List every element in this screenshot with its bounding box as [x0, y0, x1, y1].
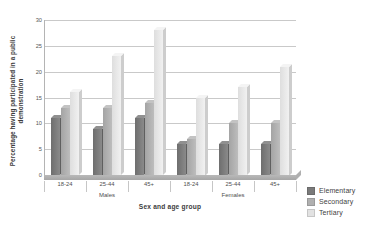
bar-face — [177, 144, 186, 175]
bar-face — [271, 123, 280, 175]
bar-series-container — [44, 20, 296, 175]
bar-side — [247, 84, 250, 175]
x-tick-label: 18-24 — [170, 181, 212, 187]
bar-face — [51, 118, 60, 175]
x-tick-separator — [254, 181, 255, 192]
bar-group — [128, 20, 170, 175]
bar-elementary-3[interactable] — [177, 144, 186, 175]
legend-label: Elementary — [319, 187, 355, 194]
plot-floor — [44, 175, 296, 180]
bar-face — [238, 87, 247, 175]
bar-elementary-4[interactable] — [219, 144, 228, 175]
y-tick-label: 15 — [20, 94, 42, 100]
bar-tertiary-0[interactable] — [70, 92, 79, 175]
bar-secondary-2[interactable] — [145, 103, 154, 175]
bar-secondary-0[interactable] — [61, 108, 70, 175]
y-tick-label: 20 — [20, 68, 42, 74]
bar-elementary-5[interactable] — [261, 144, 270, 175]
legend-label: Tertiary — [319, 209, 343, 216]
y-tick-label: 25 — [20, 43, 42, 49]
bar-face — [112, 56, 121, 175]
bar-group — [44, 20, 86, 175]
legend-swatch — [307, 187, 315, 195]
x-tick-separator — [44, 181, 45, 192]
legend-item[interactable]: Elementary — [307, 185, 377, 196]
bar-tertiary-3[interactable] — [196, 98, 205, 176]
y-axis-ticks: 051015202530 — [20, 20, 42, 175]
bar-face — [93, 129, 102, 176]
x-tick-label: 45+ — [128, 181, 170, 187]
bar-elementary-0[interactable] — [51, 118, 60, 175]
bar-face — [229, 123, 238, 175]
y-tick-label: 0 — [20, 172, 42, 178]
bar-face — [103, 108, 112, 175]
bar-side — [205, 95, 208, 176]
legend-label: Secondary — [319, 198, 353, 205]
x-tick-label: 25-44 — [86, 181, 128, 187]
bar-face — [187, 139, 196, 175]
x-tick-label: 25-44 — [212, 181, 254, 187]
x-axis-ticks: 18-2425-4445+18-2425-4445+ — [44, 181, 296, 192]
legend: ElementarySecondaryTertiary — [307, 185, 377, 218]
bar-group — [170, 20, 212, 175]
legend-swatch — [307, 209, 315, 217]
bar-tertiary-5[interactable] — [280, 67, 289, 176]
bar-tertiary-4[interactable] — [238, 87, 247, 175]
bar-group — [86, 20, 128, 175]
bar-face — [145, 103, 154, 175]
bar-face — [280, 67, 289, 176]
legend-swatch — [307, 198, 315, 206]
x-axis-groups: MalesFemales — [44, 192, 296, 202]
bar-secondary-3[interactable] — [187, 139, 196, 175]
x-group-label: Males — [44, 192, 170, 198]
bar-side — [79, 89, 82, 175]
plot-area — [44, 20, 296, 175]
bar-elementary-2[interactable] — [135, 118, 144, 175]
bar-tertiary-2[interactable] — [154, 30, 163, 175]
x-group-label: Females — [170, 192, 296, 198]
bar-face — [219, 144, 228, 175]
x-tick-separator — [296, 181, 297, 192]
bar-group — [212, 20, 254, 175]
chart-canvas: Percentage having participated in a publ… — [0, 0, 380, 234]
y-tick-label: 10 — [20, 120, 42, 126]
bar-tertiary-1[interactable] — [112, 56, 121, 175]
bar-face — [70, 92, 79, 175]
bar-secondary-4[interactable] — [229, 123, 238, 175]
x-tick-label: 45+ — [254, 181, 296, 187]
bar-face — [154, 30, 163, 175]
x-tick-separator — [86, 181, 87, 192]
x-tick-separator — [128, 181, 129, 192]
bar-side — [163, 27, 166, 175]
bar-side — [121, 53, 124, 175]
x-tick-separator — [170, 181, 171, 192]
bar-side — [289, 64, 292, 176]
x-axis-title: Sex and age group — [44, 203, 296, 210]
bar-face — [135, 118, 144, 175]
x-tick-separator — [212, 181, 213, 192]
legend-item[interactable]: Tertiary — [307, 207, 377, 218]
bar-face — [261, 144, 270, 175]
bar-group — [254, 20, 296, 175]
bar-secondary-5[interactable] — [271, 123, 280, 175]
legend-item[interactable]: Secondary — [307, 196, 377, 207]
bar-elementary-1[interactable] — [93, 129, 102, 176]
bar-secondary-1[interactable] — [103, 108, 112, 175]
y-tick-label: 5 — [20, 146, 42, 152]
y-tick-label: 30 — [20, 17, 42, 23]
plot-floor-edge — [296, 170, 301, 180]
x-tick-label: 18-24 — [44, 181, 86, 187]
bar-face — [196, 98, 205, 176]
bar-face — [61, 108, 70, 175]
